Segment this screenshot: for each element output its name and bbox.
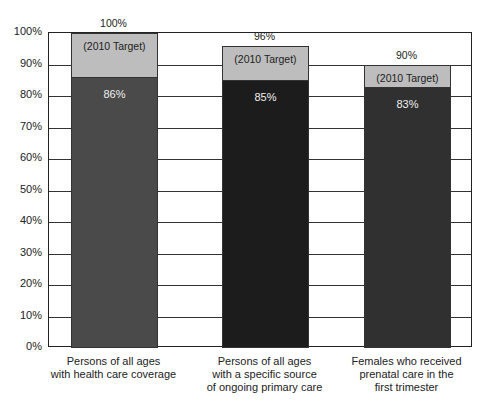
target-segment: (2010 Target) xyxy=(223,47,308,82)
y-tick-label: 10% xyxy=(2,309,42,321)
current-segment: 83% xyxy=(365,86,450,347)
y-tick-label: 60% xyxy=(2,151,42,163)
y-tick-label: 80% xyxy=(2,88,42,100)
target-segment-label: (2010 Target) xyxy=(72,40,157,52)
x-category-label: Persons of all ages with a specific sour… xyxy=(190,355,340,394)
current-segment: 86% xyxy=(72,76,157,347)
y-tick-label: 100% xyxy=(2,25,42,37)
target-value-label: 100% xyxy=(70,17,157,29)
target-segment-label: (2010 Target) xyxy=(365,72,450,84)
bar: 86%(2010 Target) xyxy=(71,33,158,348)
y-tick-label: 20% xyxy=(2,277,42,289)
current-segment: 85% xyxy=(223,79,308,347)
current-value-label: 83% xyxy=(365,98,450,110)
y-tick-label: 70% xyxy=(2,120,42,132)
y-tick-label: 0% xyxy=(2,340,42,352)
bar: 85%(2010 Target) xyxy=(222,46,309,348)
stacked-bar-chart: 0%10%20%30%40%50%60%70%80%90%100% 86%(20… xyxy=(0,0,489,406)
y-tick-label: 40% xyxy=(2,214,42,226)
y-tick-label: 90% xyxy=(2,57,42,69)
target-segment: (2010 Target) xyxy=(72,34,157,78)
y-tick-label: 50% xyxy=(2,183,42,195)
current-value-label: 86% xyxy=(72,88,157,100)
target-value-label: 90% xyxy=(363,49,450,61)
target-segment-label: (2010 Target) xyxy=(223,53,308,65)
target-value-label: 96% xyxy=(221,30,308,42)
y-tick-label: 30% xyxy=(2,246,42,258)
bar: 83%(2010 Target) xyxy=(364,65,451,349)
x-category-label: Persons of all ages with health care cov… xyxy=(39,355,189,381)
plot-area: 86%(2010 Target)85%(2010 Target)83%(2010… xyxy=(48,32,472,347)
x-category-label: Females who received prenatal care in th… xyxy=(332,355,482,394)
current-value-label: 85% xyxy=(223,91,308,103)
target-segment: (2010 Target) xyxy=(365,66,450,88)
